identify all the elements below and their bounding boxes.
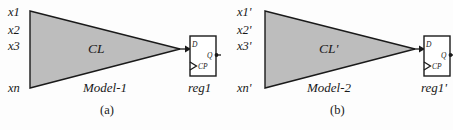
- register-pin-d-label-a: D: [192, 41, 197, 49]
- q-output-node-dot-a: [215, 53, 219, 57]
- register-name-label-a: reg1: [188, 81, 211, 94]
- input-label-xn-prime: xn': [237, 82, 251, 95]
- input-label-x2-prime: x2': [237, 24, 251, 37]
- model-label-a: Model-1: [83, 81, 127, 94]
- input-label-x1: x1: [8, 6, 20, 19]
- input-label-xn: xn: [8, 82, 20, 95]
- register-name-label-b: reg1': [421, 81, 447, 94]
- model-label-b: Model-2: [307, 81, 351, 94]
- input-label-x3-prime: x3': [237, 40, 251, 53]
- figure-container: x1 x2 x3 xn CL Model-1 D Q CP reg1 (a): [0, 0, 453, 130]
- combinational-logic-label-a: CL: [88, 42, 105, 56]
- input-label-x2: x2: [8, 24, 20, 37]
- combinational-logic-triangle-a: [30, 11, 180, 88]
- register-pin-d-label-b: D: [426, 41, 431, 49]
- combinational-logic-triangle-b: [265, 11, 415, 88]
- register-pin-q-label-b: Q: [441, 52, 446, 60]
- diagram-panel-a: x1 x2 x3 xn CL Model-1 D Q CP reg1 (a): [0, 0, 226, 130]
- q-output-node-dot-b: [449, 53, 453, 57]
- register-pin-cp-label-b: CP: [432, 63, 442, 71]
- diagram-panel-b: x1' x2' x3' xn' CL' Model-2 D Q CP reg1'…: [227, 0, 453, 130]
- input-label-x1-prime: x1': [237, 6, 251, 19]
- combinational-logic-label-b: CL': [319, 42, 338, 56]
- input-label-x3: x3: [8, 40, 20, 53]
- register-pin-q-label-a: Q: [207, 52, 212, 60]
- register-pin-cp-label-a: CP: [198, 63, 208, 71]
- caption-b: (b): [330, 103, 345, 118]
- caption-a: (a): [100, 103, 114, 118]
